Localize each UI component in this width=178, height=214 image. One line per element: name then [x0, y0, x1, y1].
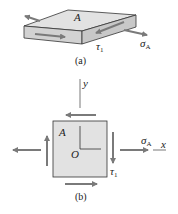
- shear-label-a: τ1: [96, 41, 103, 54]
- normal-stress-label-b: σA: [141, 135, 152, 148]
- face-label-a: A: [74, 12, 81, 23]
- y-axis-label: y: [83, 78, 88, 89]
- normal-stress-arrow-right: [124, 30, 147, 35]
- caption-a: (a): [75, 56, 86, 66]
- x-axis-label: x: [161, 139, 166, 150]
- sigma-subscript: A: [145, 43, 150, 51]
- face-label-b: A: [59, 127, 66, 138]
- origin-label: O: [71, 149, 79, 160]
- normal-stress-arrow-left: [25, 16, 40, 21]
- tau-subscript: 1: [114, 171, 118, 179]
- stress-diagram: [0, 0, 178, 214]
- sigma-subscript: A: [146, 140, 151, 148]
- tau-subscript: 1: [100, 46, 104, 54]
- shear-label-b: τ1: [110, 166, 117, 179]
- normal-stress-label-a: σA: [140, 38, 151, 51]
- caption-b: (b): [75, 192, 87, 202]
